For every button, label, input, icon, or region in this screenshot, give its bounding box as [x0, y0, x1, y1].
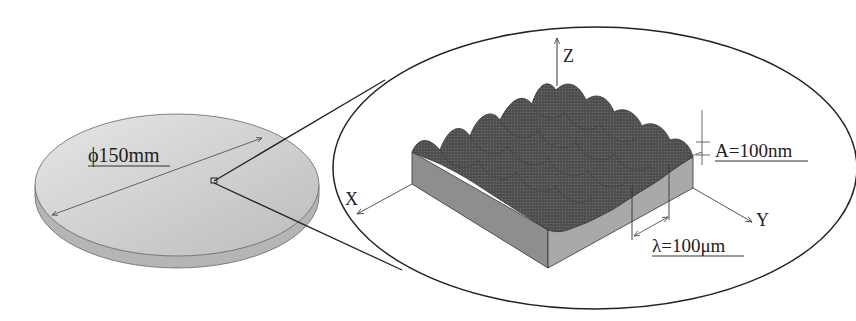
wafer-top [35, 114, 319, 256]
amplitude-label: A=100nm [715, 140, 792, 161]
wavelength-label: λ=100μm [652, 235, 726, 256]
wafer: ϕ150mm [35, 114, 319, 268]
wafer-surface-diagram: ϕ150mm Z [0, 0, 856, 321]
y-axis-label: Y [756, 210, 769, 230]
x-axis-label: X [345, 189, 358, 209]
diameter-label: ϕ150mm [88, 144, 160, 167]
z-axis-label: Z [563, 46, 574, 66]
